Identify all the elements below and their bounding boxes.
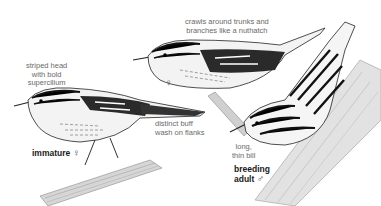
female-symbol: ♀ (165, 77, 173, 88)
annotation-line: thin bill (232, 152, 255, 161)
female-symbol: ♀ (73, 147, 81, 158)
branch-middle (208, 92, 250, 136)
male-symbol: ♂ (257, 173, 265, 184)
label-text: adult (234, 174, 254, 184)
label-breeding-adult-male: breeding adult ♂ (234, 164, 270, 184)
annotation-bill: long, thin bill (232, 143, 255, 160)
illustration-plate: striped head with bold supercilium crawl… (0, 0, 381, 206)
annotation-buff-wash: distinct buff wash on flanks (155, 120, 205, 137)
label-text: breeding (234, 164, 270, 174)
annotation-striped-head: striped head with bold supercilium (26, 62, 67, 88)
annotation-crawls: crawls around trunks and branches like a… (185, 18, 269, 35)
annotation-line: supercilium (26, 79, 67, 88)
label-immature-female: immature ♀ (32, 148, 80, 158)
female-bird (133, 28, 325, 88)
annotation-line: wash on flanks (155, 129, 205, 138)
label-text: immature (32, 148, 70, 158)
annotation-line: branches like a nuthatch (185, 27, 269, 36)
branch-lower-left (40, 160, 162, 206)
